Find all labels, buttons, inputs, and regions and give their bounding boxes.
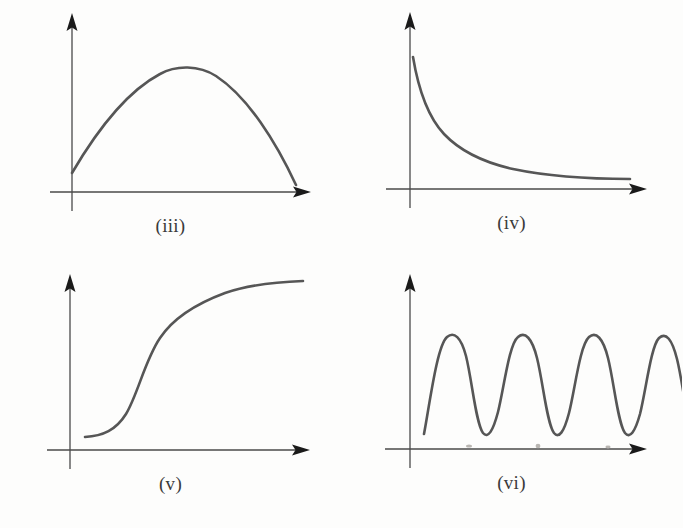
curve-sigmoid	[85, 281, 303, 437]
panel-iv-label: (iv)	[341, 212, 682, 234]
curve-downward-parabola	[72, 67, 296, 185]
panel-vi: (vi)	[341, 264, 682, 528]
axis-scuff-mark	[605, 446, 610, 449]
panel-vi-label: (vi)	[341, 472, 682, 494]
panel-v: (v)	[0, 264, 341, 528]
panel-iv: (iv)	[341, 0, 682, 264]
panel-iii: (iii)	[0, 0, 341, 264]
curve-oscillation	[424, 335, 682, 435]
axis-scuff-mark	[536, 444, 541, 448]
panel-iii-label: (iii)	[0, 215, 341, 237]
axis-scuff-mark	[466, 444, 472, 447]
figure-container: (iii) (iv) (v)	[0, 0, 683, 528]
curve-exponential-decay	[413, 57, 630, 179]
panel-v-label: (v)	[0, 473, 341, 495]
